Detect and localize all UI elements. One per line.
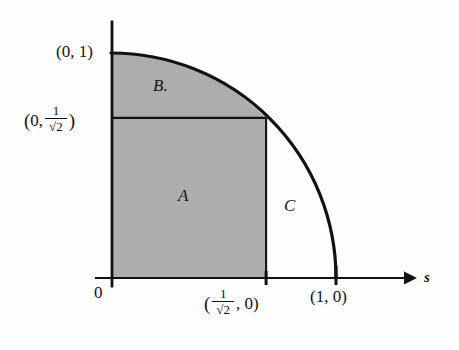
quarter-circle-figure: (0, 1) (0, 1 √2 ) B. A C 0 ( 1 √2 , 0) (… <box>0 0 459 350</box>
label-x-component: 0, <box>30 112 43 129</box>
fraction-denominator: √2 <box>45 119 67 135</box>
label-origin: 0 <box>94 284 103 301</box>
region-label-a: A <box>178 187 188 204</box>
x-axis-label-s: s <box>424 270 430 285</box>
label-point-1-0: (1, 0) <box>310 288 347 305</box>
region-b-shading <box>111 53 266 118</box>
label-y-component-zero: , 0) <box>236 295 259 312</box>
region-label-a-text: A <box>178 186 188 205</box>
label-origin-text: 0 <box>94 283 103 302</box>
label-point-inv-sqrt2-0: ( 1 √2 , 0) <box>204 288 259 319</box>
label-open-paren-x: ( <box>204 294 210 313</box>
label-point-0-inv-sqrt2: (0, 1 √2 ) <box>24 105 75 136</box>
fraction-one-over-sqrt-two-x: 1 √2 <box>212 287 234 318</box>
region-label-b: B. <box>153 77 168 94</box>
label-point-0-1: (0, 1) <box>56 41 93 60</box>
label-point-1-0-text: (1, 0) <box>310 287 347 306</box>
label-close-paren: ) <box>69 111 75 130</box>
label-point-0-1-text: (0, 1) <box>56 43 93 60</box>
x-axis-label-s-text: s <box>424 269 430 285</box>
region-label-c: C <box>284 197 295 214</box>
fraction-one-over-sqrt-two: 1 √2 <box>45 104 67 135</box>
fraction-denominator-x: √2 <box>212 302 234 318</box>
x-axis-arrowhead-icon <box>404 272 417 285</box>
fraction-numerator-x: 1 <box>212 287 234 302</box>
region-label-c-text: C <box>284 196 295 215</box>
region-a-shading <box>111 118 266 278</box>
region-label-b-text: B. <box>153 76 168 95</box>
fraction-numerator: 1 <box>45 104 67 119</box>
